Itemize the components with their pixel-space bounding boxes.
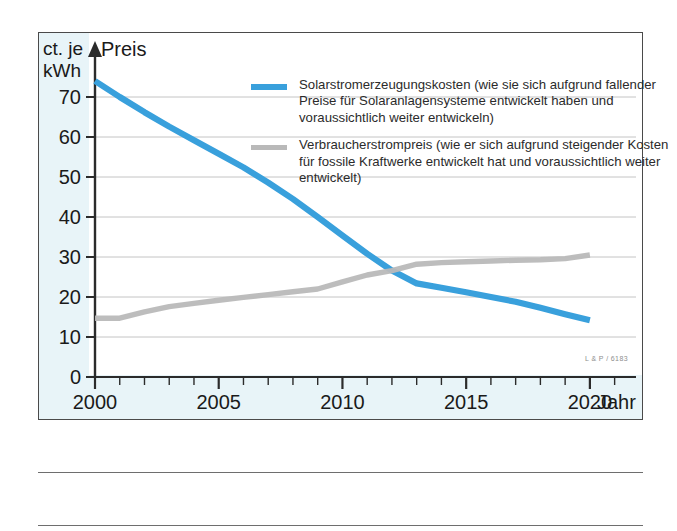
x-tick-2000: 2000 — [55, 392, 135, 412]
legend-swatch-consumer-line-icon — [251, 145, 287, 150]
y-tick-0: 0 — [39, 367, 81, 387]
x-tick-2005: 2005 — [179, 392, 259, 412]
legend-item-consumer-price: Verbraucherstrompreis (wie er sich aufgr… — [251, 137, 671, 186]
y-axis-unit-line1: ct. je — [43, 39, 83, 59]
legend-label-solar: Solarstromerzeugungskosten (wie sie sich… — [299, 77, 671, 126]
chart-frame: ct. je kWh Preis Jahr L & P / 6183 Solar… — [38, 32, 643, 420]
chart-legend: Solarstromerzeugungskosten (wie sie sich… — [251, 77, 671, 197]
y-tick-50: 50 — [39, 167, 81, 187]
y-tick-40: 40 — [39, 207, 81, 227]
y-axis-unit-line2: kWh — [43, 61, 81, 81]
page-rule-1 — [38, 472, 643, 473]
y-tick-30: 30 — [39, 247, 81, 267]
legend-item-solar: Solarstromerzeugungskosten (wie sie sich… — [251, 77, 671, 126]
x-tick-2020: 2020 — [550, 392, 630, 412]
x-tick-2015: 2015 — [426, 392, 506, 412]
legend-swatch-solar-line-icon — [251, 84, 287, 90]
page-rule-2 — [38, 525, 643, 526]
y-tick-70: 70 — [39, 87, 81, 107]
chart-credit: L & P / 6183 — [585, 355, 628, 362]
y-tick-20: 20 — [39, 287, 81, 307]
y-axis-title-preis: Preis — [101, 39, 147, 59]
legend-label-consumer-price: Verbraucherstrompreis (wie er sich aufgr… — [299, 137, 671, 186]
page-canvas: ct. je kWh Preis Jahr L & P / 6183 Solar… — [0, 0, 677, 531]
x-tick-2010: 2010 — [302, 392, 382, 412]
y-tick-60: 60 — [39, 127, 81, 147]
y-tick-10: 10 — [39, 327, 81, 347]
